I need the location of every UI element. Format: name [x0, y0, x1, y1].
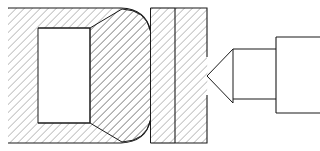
tool-tip-upper-flank: [207, 49, 233, 76]
hatched-section-fills: [0, 0, 320, 151]
inner-cavity-fill: [38, 28, 90, 123]
tool-tip-lower-flank: [207, 76, 233, 103]
technical-drawing-canvas: [0, 0, 320, 151]
cross-section-diagram: [0, 0, 320, 151]
inner-cavity-outline: [38, 28, 90, 123]
